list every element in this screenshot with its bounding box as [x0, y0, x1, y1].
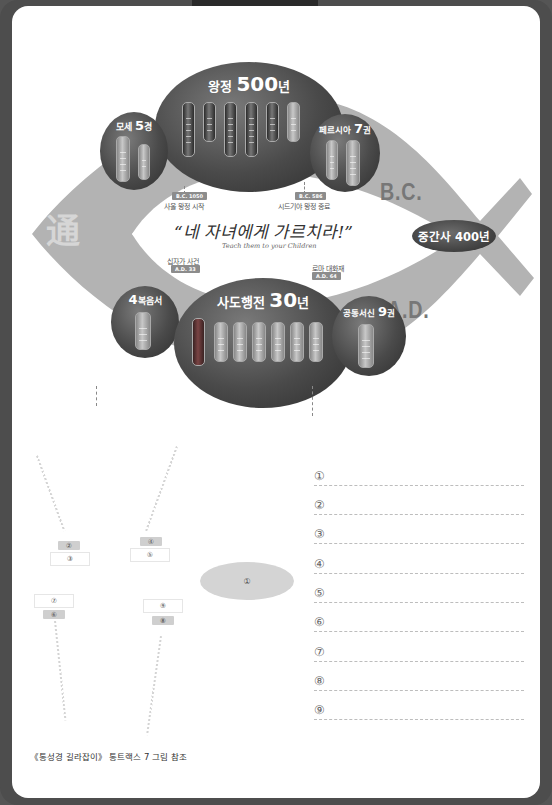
answer-number-8: ⑧ — [314, 674, 325, 688]
acts-title-text: 사도행전 — [217, 295, 270, 310]
answer-line-7[interactable]: ⑦ — [314, 634, 524, 662]
epistles-tube — [358, 324, 374, 368]
answer-line-1[interactable]: ① — [314, 458, 524, 486]
moses-tube-1 — [116, 136, 130, 182]
kingdom-title: 왕정 500년 — [155, 72, 343, 96]
kingdom-tube-2 — [203, 102, 216, 142]
event-badge-1: B.C. 1050 — [172, 192, 207, 200]
answer-number-6: ⑥ — [314, 615, 325, 629]
answer-line-5[interactable]: ⑤ — [314, 575, 524, 603]
quote-korean: “네 자녀에게 가르치라!” — [174, 218, 353, 243]
acts-title-unit: 년 — [297, 295, 309, 310]
acts-tube-4 — [271, 322, 285, 362]
acts-tube-1 — [214, 322, 228, 362]
answer-number-2: ② — [314, 498, 325, 512]
kingdom-tube-5 — [266, 102, 279, 142]
blank-line-1 — [36, 455, 65, 531]
persia-title-text: 페르시아 — [319, 125, 354, 135]
blank-oval-1: ① — [200, 562, 294, 600]
kingdom-tube-1 — [182, 102, 195, 157]
era-bc-label: B.C. — [380, 178, 423, 206]
blank-line-4 — [146, 636, 162, 735]
kingdom-tube-4 — [245, 102, 258, 157]
gospels-ellipse: 4복음서 — [111, 286, 179, 358]
epistles-title-unit: 권 — [387, 308, 395, 318]
persia-title: 페르시아 7권 — [310, 121, 380, 136]
tong-glyph: 通 — [46, 204, 80, 253]
persia-title-unit: 권 — [363, 125, 371, 135]
epistles-title-text: 공동서신 — [343, 308, 378, 318]
blank-box-7: ⑦ — [34, 594, 74, 608]
event-badge-4: A.D. 64 — [312, 272, 341, 280]
kingdom-title-text: 왕정 — [208, 79, 237, 94]
answer-number-7: ⑦ — [314, 645, 325, 659]
acts-title: 사도행전 30년 — [174, 288, 352, 312]
answer-line-6[interactable]: ⑥ — [314, 604, 524, 632]
moses-title-unit: 경 — [144, 122, 152, 132]
answer-number-9: ⑨ — [314, 703, 325, 717]
moses-title-text: 모세 — [116, 122, 135, 132]
epistles-title: 공동서신 9권 — [332, 304, 406, 319]
kingdom-title-number: 500 — [236, 72, 278, 96]
acts-connector-left — [96, 386, 97, 406]
kingdom-title-unit: 년 — [278, 79, 290, 94]
answer-line-2[interactable]: ② — [314, 487, 524, 515]
answer-line-4[interactable]: ④ — [314, 546, 524, 574]
answer-line-8[interactable]: ⑧ — [314, 663, 524, 691]
gospels-title: 4복음서 — [111, 292, 179, 307]
acts-tube-2 — [233, 322, 247, 362]
epistles-ellipse: 공동서신 9권 — [332, 296, 406, 376]
acts-tube-3 — [252, 322, 266, 362]
acts-tube-red — [192, 318, 205, 366]
blank-line-3 — [54, 621, 66, 721]
acts-tube-5 — [290, 322, 304, 362]
quote-english: Teach them to your Children — [222, 242, 316, 250]
gospels-title-text: 복음서 — [138, 296, 162, 306]
moses-tube-2 — [138, 144, 150, 180]
acts-connector-right — [312, 386, 313, 416]
gospels-tube — [135, 312, 151, 350]
acts-ellipse: 사도행전 30년 — [174, 278, 352, 408]
blank-tag-4: ④ — [140, 537, 162, 546]
moses-ellipse: 모세 5경 — [100, 112, 168, 190]
answer-line-3[interactable]: ③ — [314, 516, 524, 544]
event-badge-3: A.D. 33 — [171, 265, 200, 273]
worksheet-page: 通 왕정 500년 모세 5경 페르시아 7권 B.C. 1050 사울 왕정 … — [12, 6, 540, 798]
answer-line-9[interactable]: ⑨ — [314, 692, 524, 720]
persia-tube-2 — [346, 140, 360, 186]
answer-number-3: ③ — [314, 527, 325, 541]
footer-caption: 《통성경 길라잡이》 통트랙스 7 그림 참조 — [30, 750, 187, 762]
answer-number-4: ④ — [314, 557, 325, 571]
blank-box-9: ⑨ — [143, 599, 183, 613]
blank-tag-6: ⑥ — [43, 610, 65, 619]
answer-number-1: ① — [314, 469, 325, 483]
kingdom-tube-6 — [287, 102, 300, 142]
blank-box-5: ⑤ — [130, 548, 170, 562]
persia-tube-1 — [326, 140, 338, 180]
moses-title-number: 5 — [135, 118, 144, 133]
event-label-1: 사울 왕정 시작 — [164, 201, 204, 211]
event-badge-2: B.C. 586 — [295, 192, 326, 200]
event-label-2: 시드기야 왕정 종료 — [278, 201, 330, 211]
blank-tag-2: ② — [58, 541, 80, 550]
epistles-title-number: 9 — [378, 304, 387, 319]
acts-tube-6 — [309, 322, 323, 362]
persia-title-number: 7 — [354, 121, 363, 136]
moses-title: 모세 5경 — [100, 118, 168, 133]
blank-line-2 — [145, 446, 178, 531]
intertestamental-pill: 중간사 400년 — [412, 220, 496, 252]
answer-number-5: ⑤ — [314, 586, 325, 600]
acts-title-number: 30 — [269, 288, 297, 312]
persia-ellipse: 페르시아 7권 — [310, 114, 380, 192]
blank-tag-8: ⑧ — [152, 616, 174, 625]
gospels-title-number: 4 — [128, 292, 137, 307]
blank-box-3: ③ — [50, 552, 90, 566]
kingdom-tube-3 — [224, 102, 237, 157]
